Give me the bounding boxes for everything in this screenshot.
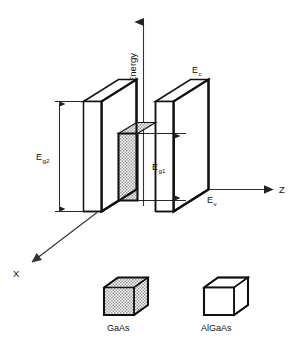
x-axis-label: X xyxy=(13,268,20,279)
legend-gaas-label: GaAs xyxy=(107,323,130,333)
barrier-bandgap-arrow: E g2 xyxy=(36,104,60,209)
heterostructure-3d xyxy=(84,80,209,212)
ev-label-subscript: v xyxy=(214,200,218,207)
x-axis: X xyxy=(13,213,97,280)
conduction-band-label: E c xyxy=(192,65,202,77)
ev-label-symbol: E xyxy=(207,195,213,205)
legend-algaas-label: AlGaAs xyxy=(201,323,232,333)
z-axis: Z xyxy=(207,184,285,195)
eg2-label-subscript: g2 xyxy=(43,157,50,164)
quantum-well-figure: Energy Z X xyxy=(0,0,299,342)
left-slab-side-face xyxy=(84,102,102,212)
eg2-label-symbol: E xyxy=(36,152,42,162)
valence-band-label: E v xyxy=(207,195,218,207)
right-slab-side-face xyxy=(156,102,174,212)
ec-label-subscript: c xyxy=(199,70,202,77)
legend-algaas-front-face xyxy=(204,288,234,316)
legend-gaas: GaAs xyxy=(104,278,148,334)
right-barrier-slab xyxy=(156,80,209,212)
legend-algaas: AlGaAs xyxy=(201,278,248,334)
eg1-label-subscript: g1 xyxy=(159,167,166,174)
ec-label-symbol: E xyxy=(192,65,198,75)
x-axis-line xyxy=(32,213,97,263)
z-axis-label: Z xyxy=(279,184,285,195)
legend-gaas-front-face xyxy=(104,288,134,316)
eg1-label-symbol: E xyxy=(152,162,158,172)
